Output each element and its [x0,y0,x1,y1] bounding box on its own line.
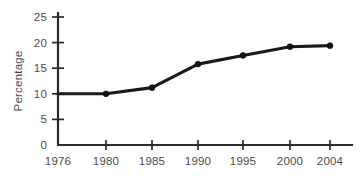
axis-lines [58,13,352,145]
data-series-group [58,43,333,97]
y-tick-label: 0 [40,139,47,151]
x-tick-label: 2004 [317,155,344,167]
line-chart-figure: 05101520251976198019851990199520002004Pe… [0,0,362,186]
y-tick-label: 25 [34,11,47,23]
x-tick-label: 1990 [185,155,211,167]
y-tick-label: 20 [34,37,47,49]
series-data-point [240,53,246,59]
series-data-point [287,44,293,50]
y-tick-label: 5 [40,113,47,125]
x-tick-label: 1985 [139,155,165,167]
series-data-point [103,91,109,97]
chart-canvas: 05101520251976198019851990199520002004Pe… [0,0,362,186]
x-tick-label: 1995 [230,155,256,167]
series-data-point [149,85,155,91]
y-axis-title-label: Percentage [12,51,24,112]
series-data-point [327,43,333,49]
series-line-percentage [58,46,330,94]
x-tick-label: 1980 [93,155,119,167]
y-tick-label: 15 [34,62,47,74]
y-tick-label: 10 [34,88,47,100]
y-axis-ticks: 0510152025 [34,11,64,151]
series-data-point [195,61,201,67]
x-tick-label: 1976 [45,155,71,167]
y-axis-title: Percentage [12,51,24,112]
chart-axes [58,13,352,145]
x-tick-label: 2000 [277,155,303,167]
